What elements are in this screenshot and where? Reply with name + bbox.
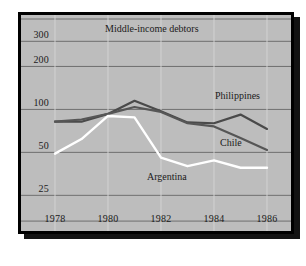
x-tick-1978: 1978 [35,213,75,224]
series-label-argentina: Argentina [147,171,187,182]
plot-area: Middle-income debtors 3002001005025 1978… [21,15,291,231]
chart-page: Middle-income debtors 3002001005025 1978… [0,0,306,266]
series-label-philippines: Philippines [215,90,260,101]
y-tick-25: 25 [23,183,49,194]
y-tick-300: 300 [23,29,49,40]
y-tick-50: 50 [23,140,49,151]
y-tick-200: 200 [23,54,49,65]
x-tick-1986: 1986 [247,213,287,224]
chart-canvas [21,15,291,231]
chart-title: Middle-income debtors [105,23,199,34]
x-tick-1984: 1984 [194,213,234,224]
x-tick-1982: 1982 [141,213,181,224]
figure-frame: Middle-income debtors 3002001005025 1978… [18,12,294,234]
vertical-gridlines [55,15,267,231]
x-tick-1980: 1980 [88,213,128,224]
y-tick-100: 100 [23,97,49,108]
series-label-chile: Chile [220,137,242,148]
